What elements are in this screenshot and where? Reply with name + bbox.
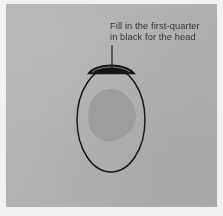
caption-line-1: Fill in the first-quarter (110, 21, 214, 32)
caption-line-2: in black for the head (110, 32, 214, 43)
inner-shaded-blob (88, 89, 136, 141)
caption: Fill in the first-quarter in black for t… (110, 21, 214, 42)
illustration-page: Fill in the first-quarter in black for t… (0, 0, 223, 216)
